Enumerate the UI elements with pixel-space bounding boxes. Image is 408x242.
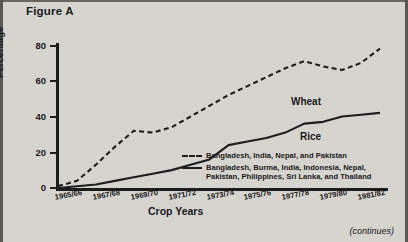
y-tick-label-0: 0 — [20, 182, 46, 193]
legend-row-solid: Bangladesh, Burma, India, Indonesia, Nep… — [182, 163, 371, 182]
y-tick-0 — [50, 187, 58, 189]
y-tick-80 — [50, 45, 58, 47]
chart-legend: Bangladesh, India, Nepal, and Pakistan B… — [182, 151, 371, 184]
dashed-line-swatch-icon — [182, 155, 202, 157]
figure-panel: Figure A 0 20 40 60 80 Percentage 1965/6… — [0, 0, 408, 242]
figure-title: Figure A — [26, 5, 74, 17]
legend-label-dashed: Bangladesh, India, Nepal, and Pakistan — [206, 151, 347, 160]
y-tick-60 — [50, 80, 58, 82]
legend-label-solid-line2: Pakistan, Philippines, Sri Lanka, and Th… — [206, 172, 371, 181]
series-annotation-wheat: Wheat — [291, 96, 321, 107]
solid-line-swatch-icon — [182, 167, 202, 169]
y-tick-20 — [50, 152, 58, 154]
y-tick-label-80: 80 — [20, 40, 46, 51]
legend-label-solid-line1: Bangladesh, Burma, India, Indonesia, Nep… — [206, 163, 366, 172]
y-tick-label-40: 40 — [20, 111, 46, 122]
y-axis-title: Percentage — [0, 27, 5, 78]
page-top-rule — [0, 0, 408, 2]
y-tick-label-20: 20 — [20, 147, 46, 158]
continues-note: (continues) — [349, 226, 394, 236]
series-annotation-rice: Rice — [300, 131, 321, 142]
x-axis-title: Crop Years — [148, 205, 203, 217]
y-tick-40 — [50, 116, 58, 118]
y-tick-label-60: 60 — [20, 75, 46, 86]
legend-row-dashed: Bangladesh, India, Nepal, and Pakistan — [182, 151, 371, 161]
